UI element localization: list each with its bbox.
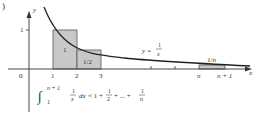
integrand-dx: dx (79, 92, 87, 100)
integral-upper-limit: n + 1 (47, 85, 60, 91)
rhs-start: < 1 + (88, 92, 103, 100)
half-den: 2 (107, 96, 110, 102)
half-num: 1 (108, 88, 111, 94)
rect-label-1: 1 (63, 46, 67, 54)
x-tick-label-2: 2 (75, 72, 79, 80)
rect-label-1-over-n: 1/n (207, 56, 216, 64)
harmonic-integral-diagram: ) y x 0 1 1 2 3 n n + 1 1 1/2 1/n y = 1 … (0, 0, 256, 120)
x-tick-label-n: n (197, 72, 201, 80)
integrand-den: x (70, 96, 74, 102)
ellipsis: + ... + (114, 92, 131, 100)
corner-label: ) (2, 1, 5, 11)
curve-label-den: x (156, 51, 160, 57)
y-axis-label: y (32, 6, 37, 14)
last-den: n (140, 96, 143, 102)
rect-n-to-n1 (199, 65, 225, 69)
last-num: 1 (141, 88, 144, 94)
x-tick-label-3: 3 (99, 72, 103, 80)
integrand-num: 1 (72, 88, 75, 94)
integral-sign: ∫ (37, 89, 43, 105)
origin-label: 0 (19, 72, 23, 80)
y-axis-arrow-icon (27, 11, 32, 18)
x-axis-label: x (248, 69, 253, 77)
curve-label-prefix: y = (141, 47, 152, 55)
y-tick-label-1: 1 (20, 26, 24, 34)
curve-label-num: 1 (158, 42, 161, 48)
integral-lower-limit: 1 (47, 99, 50, 105)
x-tick-label-n-plus-1: n + 1 (217, 72, 232, 80)
x-tick-label-1: 1 (51, 72, 55, 80)
rect-label-half: 1/2 (83, 58, 92, 66)
